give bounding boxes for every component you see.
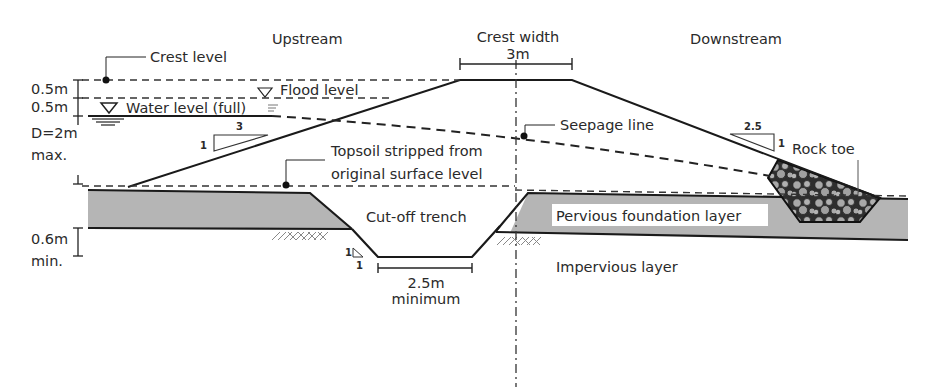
water-level-label: Water level (full) — [126, 100, 246, 116]
flood-level-triangle-icon — [258, 88, 272, 97]
water-level-triangle-icon — [101, 103, 117, 113]
trench-slope-triangle-icon — [353, 248, 363, 257]
left-dimensions — [73, 80, 83, 256]
depth-dim: D=2m — [31, 125, 78, 141]
topsoil-label-2: original surface level — [331, 166, 483, 182]
crest-level-label: Crest level — [150, 49, 227, 65]
cutoff-trench-outline — [352, 226, 500, 257]
downstream-slope-run: 2.5 — [744, 121, 762, 132]
foundation-dim-min: min. — [31, 253, 63, 269]
trench-slope-rise: 1 — [345, 247, 352, 258]
upstream-slope-run: 3 — [236, 121, 243, 132]
trench-width-value: 2.5m — [407, 275, 444, 291]
cutoff-trench-label: Cut-off trench — [366, 209, 467, 225]
foundation-dim: 0.6m — [31, 231, 68, 247]
depth-dim-max: max. — [31, 147, 67, 163]
upstream-slope-triangle-icon — [214, 135, 268, 151]
crest-level-marker — [103, 77, 110, 84]
freeboard-bottom-dim: 0.5m — [31, 99, 68, 115]
seepage-line-label: Seepage line — [560, 117, 654, 133]
downstream-label: Downstream — [690, 31, 782, 47]
downstream-slope-rise: 1 — [778, 138, 785, 149]
crest-width-value: 3m — [506, 46, 529, 62]
upstream-label: Upstream — [272, 31, 343, 47]
dam-diagram: Crest width 3m Upstream Downstream Crest… — [0, 0, 939, 387]
upstream-slope-rise: 1 — [200, 140, 207, 151]
topsoil-label-1: Topsoil stripped from — [330, 143, 483, 159]
ground-hatch-icon — [272, 232, 541, 245]
trench-slope-run: 1 — [356, 260, 363, 271]
freeboard-top-dim: 0.5m — [31, 81, 68, 97]
trench-width-minimum: minimum — [392, 291, 461, 307]
impervious-layer-label: Impervious layer — [556, 259, 678, 275]
trench-width-dimension — [378, 263, 472, 273]
topsoil-marker — [283, 182, 290, 189]
crest-width-label: Crest width — [477, 29, 560, 45]
seepage-marker — [521, 133, 528, 140]
rock-toe-label: Rock toe — [792, 141, 855, 157]
flood-level-label: Flood level — [280, 82, 358, 98]
pervious-layer-label: Pervious foundation layer — [556, 208, 741, 224]
